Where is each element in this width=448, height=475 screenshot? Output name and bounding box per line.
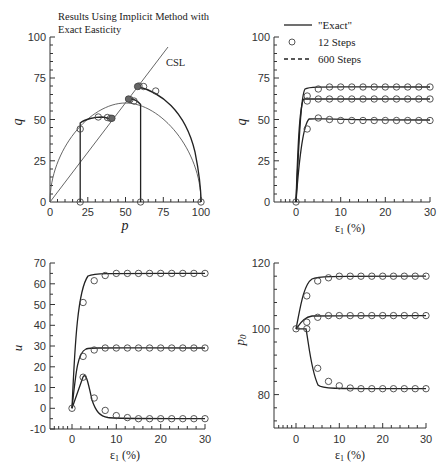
x-tick-labels: 0255075100	[47, 206, 210, 218]
svg-text:50: 50	[258, 114, 270, 126]
svg-text:0: 0	[47, 206, 53, 218]
svg-text:80: 80	[258, 389, 270, 401]
svg-text:10: 10	[110, 433, 122, 445]
csl-annotation: CSL	[166, 57, 185, 68]
svg-text:70: 70	[34, 257, 46, 269]
svg-text:120: 120	[252, 257, 270, 269]
curve-u-lower	[72, 376, 205, 419]
legend-12-steps-label: 12 Steps	[318, 36, 356, 48]
csl-line	[50, 47, 168, 202]
svg-text:0: 0	[69, 433, 75, 445]
panel-u-vs-strain: 70605040 3020100-10 0102030 ε1 (%) u	[10, 257, 211, 463]
y-ticks	[274, 37, 279, 194]
svg-text:-10: -10	[30, 423, 46, 435]
svg-text:30: 30	[424, 206, 436, 218]
y-ticks	[50, 37, 55, 194]
y-tick-labels: 1007550250	[28, 31, 46, 208]
curve-p0-60	[296, 99, 430, 202]
svg-text:25: 25	[82, 206, 94, 218]
svg-text:20: 20	[34, 361, 46, 373]
y-axis-label: p0	[232, 334, 248, 347]
y-tick-labels: 1007550250	[252, 31, 270, 208]
svg-text:10: 10	[335, 206, 347, 218]
legend-exact-label: "Exact"	[318, 19, 352, 31]
svg-text:10: 10	[34, 382, 46, 394]
x-axis-label: ε1 (%)	[110, 448, 140, 463]
svg-text:0: 0	[40, 196, 46, 208]
svg-text:20: 20	[379, 206, 391, 218]
svg-text:0: 0	[293, 433, 299, 445]
svg-text:100: 100	[192, 206, 210, 218]
svg-text:30: 30	[199, 433, 211, 445]
markers-12-steps	[293, 273, 429, 392]
x-ticks	[279, 423, 426, 428]
curve-p0-lower	[296, 329, 426, 389]
svg-text:60: 60	[34, 278, 46, 290]
legend-12-steps-swatch	[289, 39, 295, 45]
y-axis-label: q	[234, 119, 249, 126]
x-tick-labels: 0102030	[293, 433, 432, 445]
svg-text:100: 100	[252, 31, 270, 43]
x-axis-label: ε1 (%)	[335, 448, 365, 463]
svg-text:25: 25	[258, 155, 270, 167]
y-tick-labels: 70605040 3020100-10	[30, 257, 46, 435]
curve-p0-upper	[296, 276, 426, 329]
yield-surface-large	[138, 87, 201, 203]
svg-text:0: 0	[293, 206, 299, 218]
y-ticks	[274, 263, 279, 421]
markers-12-steps	[293, 84, 433, 205]
svg-text:10: 10	[333, 433, 345, 445]
chart-title-line2: Exact Easticity	[58, 24, 122, 35]
x-ticks	[54, 424, 205, 429]
legend: "Exact" 12 Steps 600 Steps	[284, 19, 361, 65]
svg-text:30: 30	[34, 340, 46, 352]
x-ticks	[281, 197, 430, 202]
curve-p0-20	[296, 119, 430, 202]
x-axis-label: p	[121, 218, 129, 233]
svg-text:0: 0	[264, 196, 270, 208]
svg-text:25: 25	[34, 155, 46, 167]
markers-12-steps	[69, 270, 208, 422]
y-axis-label: q	[10, 119, 25, 126]
svg-text:100: 100	[28, 31, 46, 43]
x-tick-labels: 0102030	[69, 433, 211, 445]
y-axis-label: u	[10, 344, 25, 351]
x-tick-labels: 0102030	[293, 206, 436, 218]
x-axis-label: ε1 (%)	[335, 221, 365, 236]
svg-text:75: 75	[258, 72, 270, 84]
path-p0-60	[130, 99, 141, 202]
curve-u-upper	[72, 273, 205, 408]
panel-q-vs-strain: 1007550250 0102030 ε1 (%) q "Exact" 12 S…	[234, 19, 436, 236]
y-ticks	[50, 263, 55, 429]
panel-stress-path: 1007550250 0255075100 p q Results Using …	[10, 11, 210, 233]
svg-text:40: 40	[34, 319, 46, 331]
svg-text:20: 20	[377, 433, 389, 445]
chart-title-line1: Results Using Implicit Method with	[58, 11, 210, 22]
y-tick-labels: 12010080	[252, 257, 270, 401]
path-p0-20	[80, 117, 112, 202]
svg-text:100: 100	[252, 323, 270, 335]
curve-p0-100	[296, 87, 430, 202]
svg-text:75: 75	[34, 72, 46, 84]
figure: 1007550250 0255075100 p q Results Using …	[0, 0, 448, 475]
svg-text:50: 50	[119, 206, 131, 218]
svg-text:75: 75	[157, 206, 169, 218]
svg-text:50: 50	[34, 114, 46, 126]
panel-p0-vs-strain: 12010080 0102030 ε1 (%) p0	[232, 257, 432, 463]
svg-text:50: 50	[34, 299, 46, 311]
yield-surface-small	[50, 103, 201, 202]
svg-text:20: 20	[155, 433, 167, 445]
svg-text:30: 30	[420, 433, 432, 445]
svg-text:0: 0	[40, 402, 46, 414]
legend-600-steps-label: 600 Steps	[318, 53, 361, 65]
